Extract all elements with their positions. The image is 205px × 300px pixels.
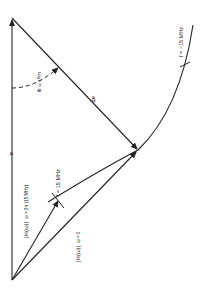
vector-h-dc xyxy=(12,152,136,280)
frequency-locus xyxy=(48,25,193,202)
label-tick-15mhz: f = 15 MHz xyxy=(55,169,61,196)
label-tick-neg-15mhz: f = −15 MHz xyxy=(178,27,184,57)
label-h-15mhz: |H(ω)|ω = 2π (15 MHz) xyxy=(23,184,29,238)
label-angle: ω₀τ = φ xyxy=(37,72,43,92)
vector-h-15mhz xyxy=(12,201,58,280)
phasor-diagram: a ab ω₀τ = φ |H(ω)|ω = 2π (15 MHz) |H(ω)… xyxy=(0,0,205,300)
vector-ab xyxy=(12,18,137,149)
angle-arc xyxy=(12,68,58,88)
label-h-dc: |H(ω)|ω = 0 xyxy=(75,231,81,262)
label-ab: ab xyxy=(91,96,97,103)
